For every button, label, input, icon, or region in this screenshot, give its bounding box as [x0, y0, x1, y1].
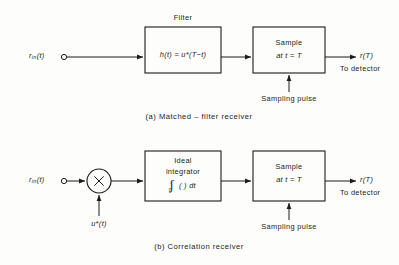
output-signal-label-b: r(T) [360, 176, 373, 185]
to-detector-note-b: To detector [340, 189, 380, 198]
input-signal-label-b: rin(t) [29, 176, 45, 185]
figure-caption-a: (a) Matched – filter receiver [146, 113, 253, 122]
sampling-pulse-label-a: Sampling pulse [261, 95, 316, 104]
integral-body: ( ) dt [179, 181, 196, 190]
input-signal-label-a: rin(t) [29, 52, 45, 61]
filter-transfer-function: h(t) = u*(T−t) [160, 50, 207, 61]
sampler-block-line1-a: Sample [276, 38, 303, 49]
integrator-block-line1: Ideal [174, 156, 192, 167]
integral-expression-group: ∫t0( ) dt [170, 180, 196, 192]
reference-signal-text: u*(t) [91, 219, 107, 228]
diagram-a-graphics [61, 27, 356, 92]
integral-lower-limit: 0 [169, 187, 172, 193]
sampler-block-line1-b: Sample [276, 162, 303, 173]
output-signal-label-a: r(T) [360, 52, 373, 61]
diagram-vector-layer [0, 0, 399, 265]
input-signal-arg-b: (t) [37, 175, 45, 184]
reference-signal-label: u*(t) [91, 220, 107, 229]
figure-canvas: rin(t) Filter h(t) = u*(T−t) Sample at t… [0, 0, 399, 265]
sampler-block-line2-b: at t = T [276, 175, 302, 186]
sampling-pulse-label-b: Sampling pulse [261, 223, 316, 232]
figure-caption-b: (b) Correlation receiver [154, 243, 244, 252]
integral-upper-limit: t [170, 179, 172, 185]
diagram-b-graphics [61, 151, 356, 220]
integrator-expression: ∫t0( ) dt [170, 180, 196, 192]
filter-block-title: Filter [174, 14, 193, 23]
input-signal-arg-a: (t) [37, 51, 45, 60]
to-detector-note-a: To detector [340, 65, 380, 74]
sampler-block-line2-a: at t = T [276, 51, 302, 62]
